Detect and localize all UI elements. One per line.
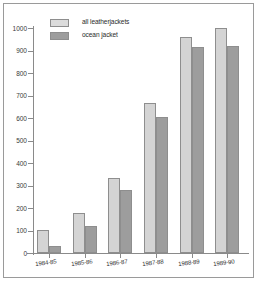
y-axis-tick-label: 200 bbox=[0, 205, 27, 212]
chart-figure: all leatherjackets ocean jacket 01002003… bbox=[0, 0, 258, 282]
legend-label: ocean jacket bbox=[82, 31, 118, 38]
bar bbox=[49, 246, 61, 253]
bar bbox=[73, 213, 85, 254]
x-axis-tick bbox=[156, 254, 157, 258]
y-axis-tick-label: 500 bbox=[0, 137, 27, 144]
y-axis-tick bbox=[28, 186, 33, 187]
bar bbox=[85, 226, 97, 253]
bar bbox=[37, 230, 49, 253]
x-axis-tick bbox=[49, 254, 50, 258]
bar bbox=[192, 47, 204, 253]
y-axis-tick bbox=[28, 163, 33, 164]
y-axis-tick-label: 400 bbox=[0, 160, 27, 167]
y-axis-tick bbox=[28, 141, 33, 142]
y-axis-tick-label: 300 bbox=[0, 182, 27, 189]
x-axis-line bbox=[27, 253, 249, 254]
y-axis-tick-label: 1000 bbox=[0, 25, 27, 32]
bar bbox=[120, 190, 132, 253]
y-axis-tick bbox=[28, 96, 33, 97]
y-axis-tick bbox=[28, 231, 33, 232]
x-axis-tick bbox=[192, 254, 193, 258]
bar bbox=[156, 117, 168, 253]
y-axis-tick-label: 600 bbox=[0, 115, 27, 122]
bar bbox=[215, 28, 227, 253]
y-axis-tick bbox=[28, 73, 33, 74]
legend-swatch-icon bbox=[50, 19, 69, 27]
legend-label: all leatherjackets bbox=[82, 18, 129, 25]
y-axis-tick-label: 700 bbox=[0, 92, 27, 99]
bar bbox=[108, 178, 120, 253]
x-axis-tick bbox=[120, 254, 121, 258]
y-axis-tick bbox=[28, 51, 33, 52]
legend-swatch-icon bbox=[50, 32, 69, 40]
bar bbox=[180, 37, 192, 253]
y-axis-tick-label: 800 bbox=[0, 70, 27, 77]
y-axis-tick bbox=[28, 28, 33, 29]
y-axis-tick-label: 900 bbox=[0, 47, 27, 54]
y-axis-tick-label: 0 bbox=[0, 250, 27, 257]
y-axis-tick bbox=[28, 253, 33, 254]
bar bbox=[144, 103, 156, 253]
x-axis-tick bbox=[227, 254, 228, 258]
y-axis-line bbox=[33, 26, 34, 255]
bar bbox=[227, 46, 239, 253]
y-axis-tick bbox=[28, 118, 33, 119]
y-axis-tick-label: 100 bbox=[0, 227, 27, 234]
x-axis-tick bbox=[85, 254, 86, 258]
y-axis-tick bbox=[28, 208, 33, 209]
